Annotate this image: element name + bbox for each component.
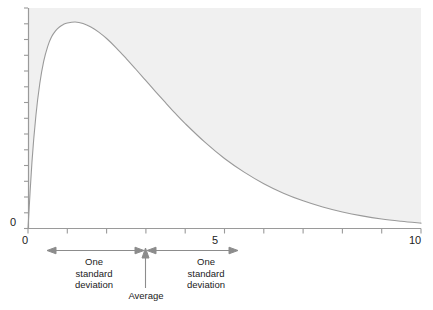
average-annotation-text: Average [110, 290, 182, 302]
sd-left-line3: deviation [48, 279, 140, 291]
shaded-area-above-curve [28, 8, 421, 229]
y-axis-tick-marks [24, 8, 28, 229]
sd-left-line2: standard [48, 268, 140, 280]
sd-right-annotation-text: One standard deviation [160, 256, 252, 291]
sd-left-line1: One [48, 256, 140, 268]
x-axis-label-ten: 10 [409, 234, 421, 246]
x-axis-tick-marks [28, 229, 421, 234]
x-axis-label-five: 5 [212, 234, 218, 246]
x-axis [28, 229, 421, 234]
sd-right-line3: deviation [160, 279, 252, 291]
y-axis [24, 8, 29, 229]
sd-left-arrow [47, 247, 144, 254]
average-arrow [142, 248, 149, 288]
sd-right-line1: One [160, 256, 252, 268]
density-curve-figure: 0 0 5 10 One standard deviation One stan… [0, 0, 433, 310]
sd-right-arrow [147, 247, 238, 254]
sd-right-line2: standard [160, 268, 252, 280]
sd-left-annotation-text: One standard deviation [48, 256, 140, 291]
x-axis-label-zero: 0 [22, 234, 28, 246]
y-axis-label-zero: 0 [10, 216, 16, 228]
